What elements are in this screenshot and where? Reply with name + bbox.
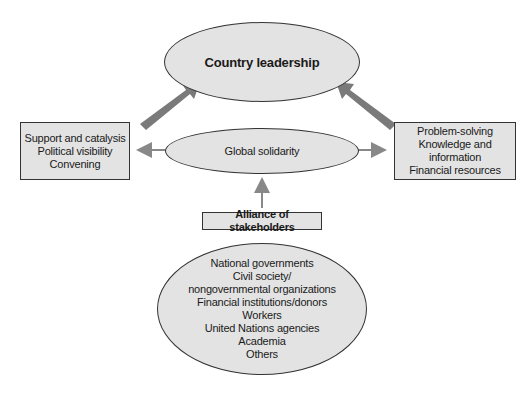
problem-solving-box: Problem-solving Knowledge and informatio… xyxy=(394,122,516,180)
resource-line: Knowledge and information xyxy=(395,138,515,164)
support-box: Support and catalysis Political visibili… xyxy=(20,122,130,180)
stakeholder-item: Workers xyxy=(242,309,281,322)
big-arrow-right-icon xyxy=(336,82,396,130)
country-leadership-label: Country leadership xyxy=(205,56,320,69)
stakeholder-item: Financial institutions/donors xyxy=(197,296,327,309)
country-leadership-node: Country leadership xyxy=(164,22,360,102)
stakeholder-item: Academia xyxy=(238,335,285,348)
support-line: Support and catalysis xyxy=(21,132,129,145)
alliance-label: Alliance of stakeholders xyxy=(203,208,321,234)
support-line: Political visibility xyxy=(21,145,129,158)
stakeholder-item: Civil society/ xyxy=(233,270,291,283)
resource-line: Problem-solving xyxy=(395,125,515,138)
global-solidarity-label: Global solidarity xyxy=(225,145,300,158)
global-solidarity-node: Global solidarity xyxy=(165,128,359,174)
alliance-box: Alliance of stakeholders xyxy=(202,212,322,230)
stakeholders-node: National governments Civil society/ nong… xyxy=(157,243,367,375)
stakeholder-item: nongovernmental organizations xyxy=(188,283,336,296)
support-line: Convening xyxy=(21,158,129,171)
stakeholder-item: Others xyxy=(246,348,278,361)
stakeholder-item: United Nations agencies xyxy=(205,322,320,335)
resource-line: Financial resources xyxy=(395,164,515,177)
stakeholder-item: National governments xyxy=(210,257,313,270)
